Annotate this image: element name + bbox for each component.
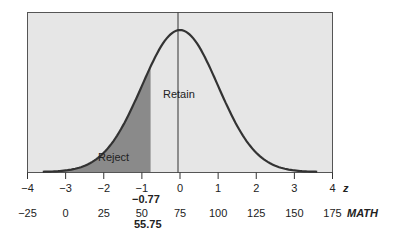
z-tick-label: 2 xyxy=(253,182,259,194)
math-tick-label: 125 xyxy=(247,207,265,219)
math-tick-label: 0 xyxy=(63,207,69,219)
normal-distribution-chart: Retain Reject −4−3−2−101234 z −0.77 −250… xyxy=(0,0,396,241)
z-tick-label: 4 xyxy=(329,182,335,194)
math-axis-name: MATH xyxy=(347,207,379,219)
critical-math-label: 55.75 xyxy=(134,218,162,230)
z-tick-label: −4 xyxy=(21,182,34,194)
z-tick-label: −2 xyxy=(97,182,110,194)
math-tick-label: 75 xyxy=(174,207,186,219)
reject-label: Reject xyxy=(98,151,129,163)
z-tick-label: 0 xyxy=(177,182,183,194)
math-tick-label: 175 xyxy=(323,207,341,219)
z-tick-label: −3 xyxy=(59,182,72,194)
critical-z-label: −0.77 xyxy=(132,193,160,205)
math-axis-labels: −250255075100125150175 xyxy=(18,207,342,219)
z-tick-label: 3 xyxy=(291,182,297,194)
z-axis-labels: −4−3−2−101234 xyxy=(21,182,335,194)
z-axis-name: z xyxy=(342,182,349,194)
math-tick-label: 150 xyxy=(285,207,303,219)
math-tick-label: −25 xyxy=(18,207,37,219)
retain-label: Retain xyxy=(163,88,195,100)
z-tick-label: 1 xyxy=(215,182,221,194)
math-tick-label: 25 xyxy=(98,207,110,219)
math-tick-label: 100 xyxy=(209,207,227,219)
z-axis-ticks xyxy=(28,173,333,180)
